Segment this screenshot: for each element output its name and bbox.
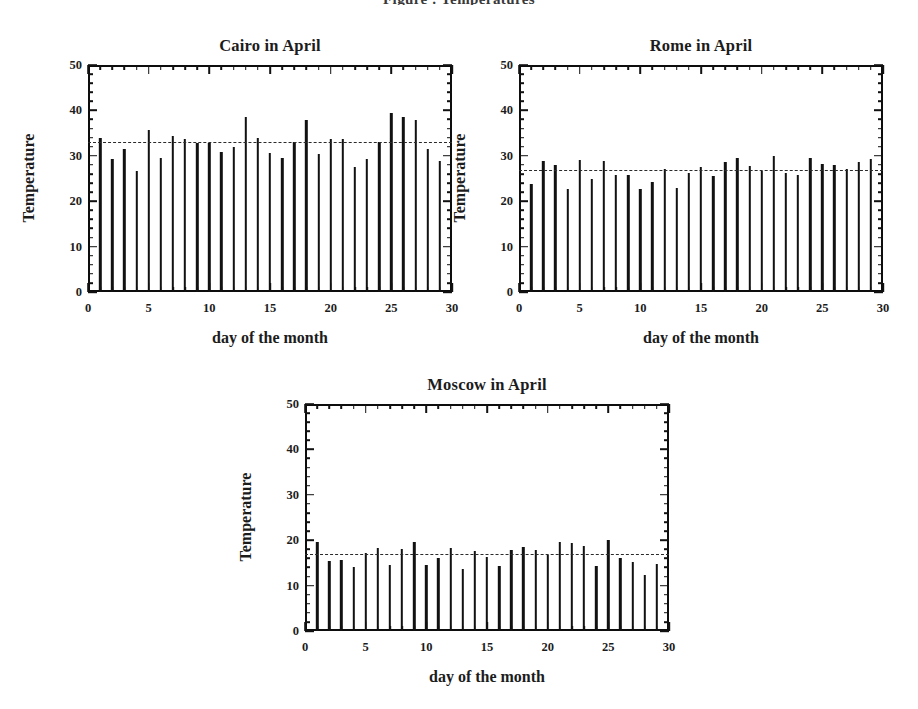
x-tick-top [785, 65, 787, 70]
x-tick [797, 287, 799, 292]
y-tick [519, 173, 524, 175]
x-tick [567, 287, 569, 292]
y-tick-label: 0 [271, 624, 299, 639]
x-tick [712, 287, 714, 292]
x-tick-top [269, 65, 271, 74]
x-tick [328, 626, 330, 631]
y-tick [88, 137, 93, 139]
bar [340, 560, 342, 631]
bar [651, 182, 653, 292]
y-tick [519, 155, 528, 157]
y-tick-right [664, 594, 669, 596]
bar [663, 169, 665, 292]
x-tick [591, 287, 593, 292]
y-tick [305, 576, 310, 578]
x-tick-top [664, 65, 666, 70]
x-tick [652, 287, 654, 292]
y-tick [519, 282, 524, 284]
x-tick-top [389, 404, 391, 409]
bar [595, 566, 597, 631]
x-tick-top [330, 65, 332, 74]
y-tick-right [878, 101, 883, 103]
y-tick [519, 209, 524, 211]
y-tick [519, 255, 524, 257]
x-tick-top [318, 65, 320, 70]
y-tick-label: 10 [54, 239, 82, 254]
y-tick [88, 246, 97, 248]
x-tick [535, 626, 537, 631]
y-tick [88, 182, 93, 184]
y-axis-title-rome: Temperature [450, 64, 468, 291]
y-tick-right [664, 558, 669, 560]
y-tick-right [878, 282, 883, 284]
y-tick-label: 30 [54, 148, 82, 163]
x-tick-top [676, 65, 678, 70]
y-tick [305, 530, 310, 532]
bar [845, 169, 847, 292]
y-axis-title-moscow: Temperature [236, 403, 254, 630]
y-tick-label: 20 [271, 533, 299, 548]
bar [748, 166, 750, 292]
y-tick-right [664, 503, 669, 505]
bar [510, 550, 512, 631]
bar [858, 162, 860, 292]
x-tick [341, 626, 343, 631]
y-tick [88, 209, 93, 211]
y-tick [305, 603, 310, 605]
y-tick-right [878, 164, 883, 166]
series-layer-moscow [305, 404, 669, 631]
y-tick [88, 110, 97, 112]
y-tick-right [874, 64, 883, 66]
x-tick-label: 5 [146, 301, 152, 316]
x-tick [136, 287, 138, 292]
bar [401, 549, 403, 631]
bar [437, 558, 439, 631]
y-tick-right [664, 485, 669, 487]
y-tick-right [878, 219, 883, 221]
y-tick [88, 228, 93, 230]
bar [474, 551, 476, 631]
x-tick-top [523, 404, 525, 409]
x-tick-top [644, 404, 646, 409]
bar [111, 159, 113, 292]
y-tick [88, 291, 97, 293]
x-tick [316, 626, 318, 631]
y-tick [305, 458, 310, 460]
y-tick-right [874, 110, 883, 112]
y-tick [88, 200, 97, 202]
x-tick-top [124, 65, 126, 70]
x-tick-top [579, 65, 581, 74]
bar [486, 557, 488, 631]
x-tick [269, 283, 271, 292]
x-tick [620, 626, 622, 631]
x-tick-top [498, 404, 500, 409]
x-tick-top [834, 65, 836, 70]
x-tick [172, 287, 174, 292]
x-tick-top [555, 65, 557, 70]
bar [389, 565, 391, 631]
y-tick [519, 228, 524, 230]
bar [208, 143, 210, 292]
x-tick-top [172, 65, 174, 70]
x-tick-top [591, 65, 593, 70]
x-tick [111, 287, 113, 292]
x-tick-label: 20 [324, 301, 337, 316]
x-tick [257, 287, 259, 292]
y-tick-right [664, 603, 669, 605]
x-tick-top [712, 65, 714, 70]
x-tick [571, 626, 573, 631]
y-tick [88, 255, 93, 257]
y-tick-right [878, 119, 883, 121]
bar [317, 154, 319, 292]
x-tick [450, 626, 452, 631]
y-tick [519, 119, 524, 121]
y-tick-label: 10 [271, 578, 299, 593]
y-tick [305, 539, 314, 541]
x-tick-top [403, 65, 405, 70]
x-tick-top [603, 65, 605, 70]
bar [542, 161, 544, 292]
y-tick-right [878, 255, 883, 257]
x-tick [486, 622, 488, 631]
x-tick-label: 25 [385, 301, 398, 316]
chart-panel-moscow: Moscow in AprilTemperatureday of the mon… [215, 375, 689, 691]
